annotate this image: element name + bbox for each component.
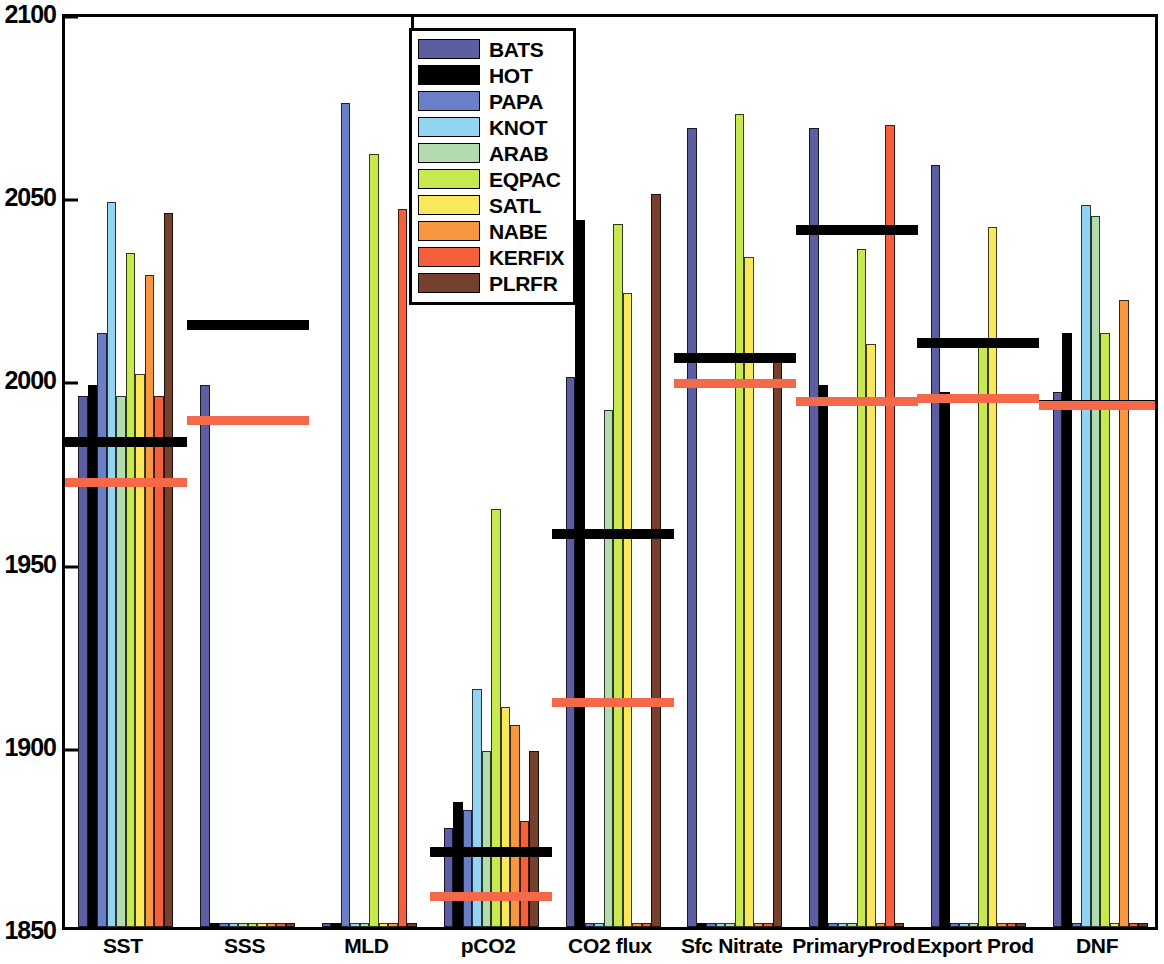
legend-item-label: KNOT (489, 117, 547, 138)
y-axis-tick-mark (65, 382, 78, 385)
bar (931, 165, 941, 927)
bar (1062, 333, 1072, 927)
y-axis-tick-label: 1850 (4, 916, 56, 945)
bar (594, 923, 604, 927)
bar (763, 923, 773, 927)
bar (725, 923, 735, 927)
x-axis-tick-label: Sfc Nitrate (681, 934, 783, 958)
legend-item-hot[interactable]: HOT (418, 62, 567, 88)
bar (773, 355, 783, 927)
x-axis-tick-label: SSS (224, 934, 265, 958)
bar (1081, 205, 1091, 927)
bar (847, 923, 857, 927)
legend-item-nabe[interactable]: NABE (418, 218, 567, 244)
bar (200, 385, 210, 927)
bar (453, 802, 463, 927)
legend-color-swatch (418, 221, 480, 241)
bar (1129, 923, 1139, 927)
black-reference-line (187, 320, 309, 330)
legend-item-eqpac[interactable]: EQPAC (418, 166, 567, 192)
bar (978, 341, 988, 927)
bar (257, 923, 267, 927)
y-axis-tick-label: 2100 (4, 0, 56, 29)
x-axis-tick-label: Export Prod (917, 934, 1034, 958)
legend-item-kerfix[interactable]: KERFIX (418, 244, 567, 270)
bar (1138, 923, 1148, 927)
bar (566, 377, 576, 927)
y-axis-tick-label: 1950 (4, 549, 56, 578)
bar (107, 202, 117, 927)
bar (369, 154, 379, 927)
legend-color-swatch (418, 117, 480, 137)
bar (398, 209, 408, 927)
y-axis-tick-mark (65, 565, 78, 568)
legend-item-arab[interactable]: ARAB (418, 140, 567, 166)
bar (959, 923, 969, 927)
bar (866, 344, 876, 927)
orange-reference-line (1039, 401, 1155, 410)
orange-reference-line (674, 379, 796, 388)
bar (1053, 392, 1063, 927)
legend-item-knot[interactable]: KNOT (418, 114, 567, 140)
bar (491, 509, 501, 927)
y-axis-tick-mark (65, 199, 78, 202)
bar (1007, 923, 1017, 927)
bar (940, 392, 950, 927)
bar (706, 923, 716, 927)
orange-reference-line (430, 892, 552, 901)
legend-item-papa[interactable]: PAPA (418, 88, 567, 114)
y-axis-tick-label: 2000 (4, 366, 56, 395)
orange-reference-line (65, 478, 187, 487)
bar (210, 923, 220, 927)
black-reference-line (917, 338, 1039, 348)
y-axis-tick-label: 1900 (4, 732, 56, 761)
legend-item-label: PLRFR (489, 273, 558, 294)
legend-item-plrfr[interactable]: PLRFR (418, 270, 567, 296)
bar (388, 923, 398, 927)
bar (876, 923, 886, 927)
legend-item-satl[interactable]: SATL (418, 192, 567, 218)
bar (145, 275, 155, 927)
bar (219, 923, 229, 927)
x-axis-tick-label: MLD (344, 934, 389, 958)
legend-item-label: NABE (489, 221, 547, 242)
bar (322, 923, 332, 927)
bar (604, 410, 614, 927)
black-reference-line (674, 353, 796, 363)
legend-item-bats[interactable]: BATS (418, 36, 567, 62)
bar (379, 923, 389, 927)
bar (116, 396, 126, 927)
legend-color-swatch (418, 247, 480, 267)
chart-legend: BATSHOTPAPAKNOTARABEQPACSATLNABEKERFIXPL… (409, 28, 576, 305)
bar (857, 249, 867, 927)
bar (1110, 923, 1120, 927)
legend-item-label: EQPAC (489, 169, 561, 190)
bar (575, 220, 585, 927)
bar (651, 194, 661, 927)
legend-item-label: ARAB (489, 143, 548, 164)
legend-item-label: KERFIX (489, 247, 564, 268)
bar (988, 227, 998, 927)
legend-item-label: HOT (489, 65, 532, 86)
bar (520, 821, 530, 927)
bar (1091, 216, 1101, 927)
plot-area (65, 17, 1155, 927)
legend-item-label: BATS (489, 39, 543, 60)
bar (623, 293, 633, 927)
x-axis-tick-label: PrimaryProd (792, 934, 915, 958)
legend-color-swatch (418, 91, 480, 111)
bar (154, 396, 164, 927)
bar (238, 923, 248, 927)
bar (164, 213, 174, 927)
bar (78, 396, 88, 927)
legend-item-label: PAPA (489, 91, 543, 112)
x-axis-tick-label: CO2 flux (568, 934, 652, 958)
bar (267, 923, 277, 927)
legend-color-swatch (418, 273, 480, 293)
x-axis-tick-label: SST (103, 934, 143, 958)
bar (286, 923, 296, 927)
bar (838, 923, 848, 927)
bar (331, 923, 341, 927)
bar (642, 923, 652, 927)
bar (735, 114, 745, 927)
